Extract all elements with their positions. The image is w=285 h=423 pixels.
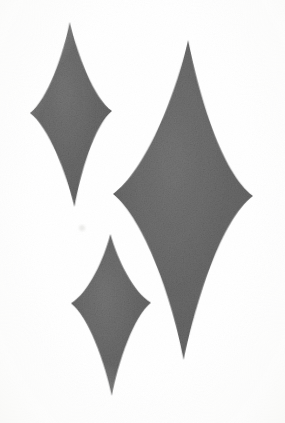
scan-artifacts [79,225,85,231]
artwork-canvas [0,0,285,423]
scan-speck [79,225,85,231]
sparkle-stars-illustration [0,0,285,423]
